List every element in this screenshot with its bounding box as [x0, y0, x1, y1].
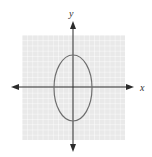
x-axis-right-arrow-icon [126, 84, 134, 90]
x-axis-label: x [139, 82, 145, 93]
y-axis-label: y [68, 8, 74, 19]
ellipse-graph: x y [0, 0, 152, 157]
y-axis-top-arrow-icon [70, 21, 76, 29]
y-axis-bottom-arrow-icon [70, 144, 76, 152]
x-axis-left-arrow-icon [11, 84, 19, 90]
